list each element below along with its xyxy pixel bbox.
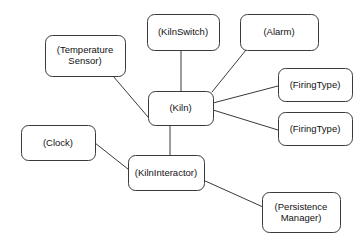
temperature-sensor-node[interactable]: (TemperatureSensor) bbox=[46, 36, 126, 77]
persistence-manager-node-label-line: (Persistence bbox=[275, 200, 328, 211]
edge-kiln-to-firing-type-1 bbox=[213, 86, 278, 103]
firing-type-node-1-label: (FiringType) bbox=[290, 78, 341, 89]
alarm-node[interactable]: (Alarm) bbox=[241, 15, 319, 51]
edge-kiln-interactor-to-persistence-manager bbox=[203, 180, 263, 207]
kiln-switch-node[interactable]: (KilnSwitch) bbox=[148, 15, 220, 51]
temperature-sensor-node-label-line: (Temperature bbox=[57, 44, 114, 55]
kiln-node[interactable]: (Kiln) bbox=[149, 92, 214, 126]
firing-type-node-1-label-line: (FiringType) bbox=[290, 78, 341, 89]
object-collaboration-diagram: (TemperatureSensor)(KilnSwitch)(Alarm)(F… bbox=[0, 0, 361, 242]
alarm-node-label: (Alarm) bbox=[263, 26, 294, 37]
persistence-manager-node-label-line: Manager) bbox=[281, 211, 322, 222]
clock-node-label: (Clock) bbox=[43, 136, 73, 147]
nodes-layer: (TemperatureSensor)(KilnSwitch)(Alarm)(F… bbox=[22, 15, 353, 233]
firing-type-node-1[interactable]: (FiringType) bbox=[279, 69, 353, 102]
clock-node[interactable]: (Clock) bbox=[22, 126, 96, 161]
clock-node-label-line: (Clock) bbox=[43, 136, 73, 147]
alarm-node-label-line: (Alarm) bbox=[263, 26, 294, 37]
diagram-canvas-root: (TemperatureSensor)(KilnSwitch)(Alarm)(F… bbox=[0, 0, 361, 242]
persistence-manager-node-label: (PersistenceManager) bbox=[275, 200, 328, 222]
edge-kiln-to-temperature-sensor bbox=[113, 76, 148, 117]
edge-kiln-to-alarm bbox=[212, 50, 246, 92]
firing-type-node-2-label-line: (FiringType) bbox=[290, 122, 341, 133]
firing-type-node-2[interactable]: (FiringType) bbox=[279, 113, 353, 146]
kiln-node-label-line: (Kiln) bbox=[169, 102, 191, 113]
kiln-interactor-node-label: (KilnInteractor) bbox=[135, 166, 197, 177]
temperature-sensor-node-label-line: Sensor) bbox=[68, 55, 101, 66]
edge-clock-to-kiln-interactor bbox=[95, 143, 133, 173]
firing-type-node-2-label: (FiringType) bbox=[290, 122, 341, 133]
kiln-switch-node-label: (KilnSwitch) bbox=[158, 26, 208, 37]
persistence-manager-node[interactable]: (PersistenceManager) bbox=[263, 193, 341, 233]
edge-kiln-to-firing-type-2 bbox=[213, 110, 278, 130]
kiln-interactor-node-label-line: (KilnInteractor) bbox=[135, 166, 197, 177]
kiln-switch-node-label-line: (KilnSwitch) bbox=[158, 26, 208, 37]
kiln-node-label: (Kiln) bbox=[169, 102, 191, 113]
kiln-interactor-node[interactable]: (KilnInteractor) bbox=[129, 156, 205, 191]
